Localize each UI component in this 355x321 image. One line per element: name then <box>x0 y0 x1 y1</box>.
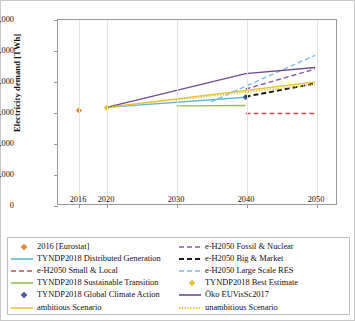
legend-label: Öko EUVisSc2017 <box>205 290 269 300</box>
y-tick-label: 3,000 <box>0 108 14 117</box>
legend-item[interactable]: e-H2050 Small & Local <box>10 265 178 277</box>
y-tick-mark <box>54 175 58 176</box>
x-tick-label: 2020 <box>98 195 115 204</box>
legend-swatch <box>10 254 34 264</box>
legend-label: e-H2050 Fossil & Nuclear <box>205 242 294 252</box>
plot-area <box>57 19 337 205</box>
x-gridline <box>107 20 108 204</box>
legend-swatch <box>178 290 202 300</box>
legend-label: unambitious Scenario <box>205 303 278 313</box>
legend-swatch <box>10 290 34 300</box>
legend-label: ambitious Scenario <box>37 303 101 313</box>
legend-item[interactable]: TYNDP2018 Global Climate Action <box>10 289 178 301</box>
y-tick-label: 0 <box>0 201 14 210</box>
series-canvas <box>58 20 336 204</box>
x-gridline <box>247 20 248 204</box>
chart-legend: 2016 [Eurostat]e-H2050 Fossil & NuclearT… <box>7 237 350 315</box>
legend-label: 2016 [Eurostat] <box>37 242 89 252</box>
y-tick-mark <box>54 206 58 207</box>
y-tick-label: 1,000 <box>0 170 14 179</box>
legend-item[interactable]: Öko EUVisSc2017 <box>178 289 348 301</box>
x-tick-mark <box>79 204 80 208</box>
legend-swatch <box>10 242 34 252</box>
y-tick-mark <box>54 113 58 114</box>
legend-swatch <box>178 278 202 288</box>
y-tick-label: 4,000 <box>0 77 14 86</box>
y-tick-mark <box>54 20 58 21</box>
legend-label: e-H2050 Large Scale RES <box>205 266 293 276</box>
series-line <box>107 84 316 107</box>
legend-swatch <box>178 266 202 276</box>
legend-swatch <box>178 303 202 313</box>
x-tick-mark <box>107 204 108 208</box>
legend-item[interactable]: e-H2050 Big & Market <box>178 253 348 265</box>
y-tick-label: 5,000 <box>0 46 14 55</box>
y-tick-label: 6,000 <box>0 15 14 24</box>
legend-swatch <box>178 242 202 252</box>
legend-item[interactable]: TYNDP2018 Best Estimate <box>178 277 348 289</box>
legend-item[interactable]: ambitious Scenario <box>10 301 178 313</box>
x-gridline <box>79 20 80 204</box>
legend-label: e-H2050 Big & Market <box>205 254 283 264</box>
y-tick-label: 2,000 <box>0 139 14 148</box>
legend-item[interactable]: TYNDP2018 Distributed Generation <box>10 253 178 265</box>
chart-figure: Electricity demand [TWh] 201620202030204… <box>0 0 355 321</box>
legend-item[interactable]: 2016 [Eurostat] <box>10 241 178 253</box>
legend-swatch <box>10 266 34 276</box>
legend-item[interactable]: e-H2050 Large Scale RES <box>178 265 348 277</box>
legend-item[interactable]: e-H2050 Fossil & Nuclear <box>178 241 348 253</box>
legend-label: TYNDP2018 Best Estimate <box>205 278 298 288</box>
x-tick-mark <box>177 204 178 208</box>
y-axis-title: Electricity demand [TWh] <box>12 23 26 143</box>
legend-item[interactable]: TYNDP2018 Sustainable Transition <box>10 277 178 289</box>
x-gridline <box>177 20 178 204</box>
legend-label: TYNDP2018 Distributed Generation <box>37 254 161 264</box>
legend-label: TYNDP2018 Global Climate Action <box>37 290 160 300</box>
chart-area: Electricity demand [TWh] 201620202030204… <box>1 5 355 237</box>
legend-swatch <box>10 303 34 313</box>
x-tick-label: 2050 <box>308 195 325 204</box>
y-tick-mark <box>54 82 58 83</box>
x-tick-label: 2016 <box>70 195 87 204</box>
legend-label: e-H2050 Small & Local <box>37 266 118 276</box>
legend-swatch <box>10 278 34 288</box>
x-tick-mark <box>247 204 248 208</box>
x-tick-label: 2040 <box>238 195 255 204</box>
y-tick-mark <box>54 144 58 145</box>
x-tick-mark <box>317 204 318 208</box>
legend-label: TYNDP2018 Sustainable Transition <box>37 278 158 288</box>
x-gridline <box>317 20 318 204</box>
legend-swatch <box>178 254 202 264</box>
y-tick-mark <box>54 51 58 52</box>
legend-item[interactable]: unambitious Scenario <box>178 301 348 313</box>
x-tick-label: 2030 <box>168 195 185 204</box>
